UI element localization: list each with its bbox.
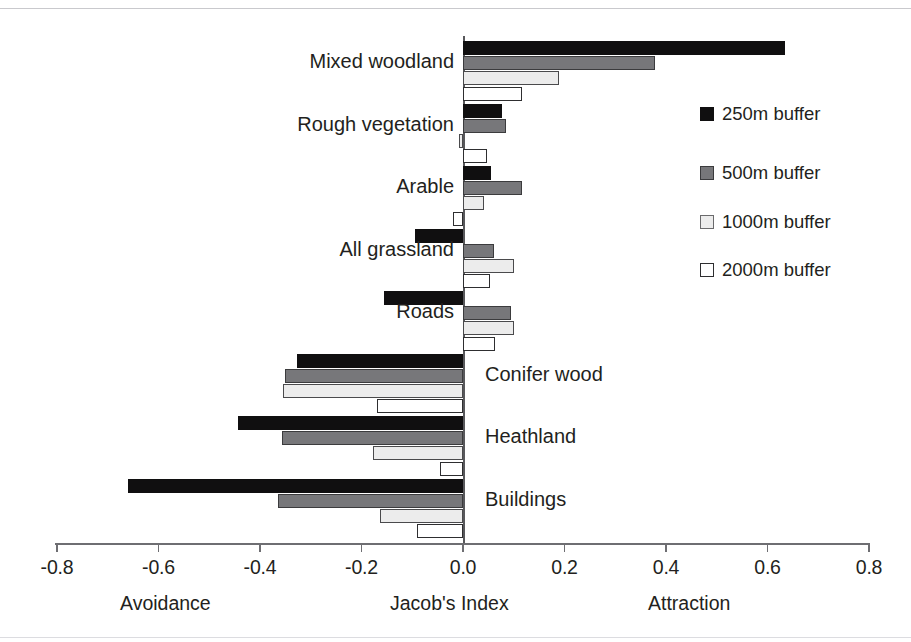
light-gray-square-icon (700, 215, 714, 229)
bar (459, 134, 463, 148)
bar (278, 494, 463, 508)
category-label: Arable (396, 175, 454, 198)
x-axis-tick (564, 543, 566, 552)
x-axis-tick-label: 0.8 (829, 556, 909, 579)
bar (377, 399, 463, 413)
dark-gray-square-icon (700, 166, 714, 180)
x-axis-tick (665, 543, 667, 552)
bar (463, 321, 514, 335)
black-square-icon (700, 107, 714, 121)
category-label: Rough vegetation (297, 113, 454, 136)
bar (463, 274, 490, 288)
legend-item: 1000m buffer (700, 213, 831, 232)
x-axis-tick (361, 543, 363, 552)
jacobs-index-bar-chart: -0.8-0.6-0.4-0.20.00.20.40.60.8Avoidance… (0, 0, 911, 642)
x-axis-tick (462, 543, 464, 552)
plot-area: -0.8-0.6-0.4-0.20.00.20.40.60.8Avoidance… (0, 0, 911, 642)
x-axis-tick (158, 543, 160, 552)
bar (373, 446, 463, 460)
bar (463, 104, 502, 118)
category-label: Buildings (485, 488, 566, 511)
category-label: Conifer wood (485, 363, 603, 386)
x-axis-tick-label: 0.2 (525, 556, 605, 579)
legend-item-label: 500m buffer (722, 164, 820, 183)
bar (463, 166, 491, 180)
bar (283, 384, 463, 398)
bar (238, 416, 463, 430)
bar (282, 431, 463, 445)
category-label: Mixed woodland (309, 50, 454, 73)
bar (463, 149, 487, 163)
bar (463, 259, 514, 273)
bar (417, 524, 463, 538)
legend-item-label: 2000m buffer (722, 261, 831, 280)
bar (285, 369, 463, 383)
bar (463, 306, 511, 320)
white-square-icon (700, 263, 714, 277)
legend-item-label: 1000m buffer (722, 213, 831, 232)
axis-caption-avoidance: Avoidance (120, 592, 211, 615)
bar (463, 71, 559, 85)
category-label: Roads (396, 300, 454, 323)
bar (297, 354, 463, 368)
x-axis-tick (868, 543, 870, 552)
x-axis-tick (259, 543, 261, 552)
bar (128, 479, 463, 493)
axis-caption-jacobs-index: Jacob's Index (390, 592, 509, 615)
legend-item: 250m buffer (700, 105, 820, 124)
x-axis-tick-label: 0.4 (626, 556, 706, 579)
bar (463, 87, 522, 101)
x-axis-tick-label: -0.6 (119, 556, 199, 579)
x-axis-tick-label: 0.0 (423, 556, 503, 579)
bar (463, 119, 506, 133)
bar (463, 244, 494, 258)
x-axis-tick-label: -0.8 (17, 556, 97, 579)
legend-item: 2000m buffer (700, 261, 831, 280)
axis-caption-attraction: Attraction (648, 592, 730, 615)
x-axis-tick-label: 0.6 (728, 556, 808, 579)
category-label: Heathland (485, 425, 576, 448)
bar (453, 212, 463, 226)
bar (440, 462, 463, 476)
x-axis-tick (56, 543, 58, 552)
legend-item-label: 250m buffer (722, 105, 820, 124)
bar (463, 181, 522, 195)
bar (463, 337, 495, 351)
bar (380, 509, 463, 523)
category-label: All grassland (339, 238, 454, 261)
bar (463, 56, 655, 70)
x-axis-tick-label: -0.4 (220, 556, 300, 579)
bar (463, 41, 785, 55)
x-axis-tick (767, 543, 769, 552)
bar (463, 196, 484, 210)
x-axis-tick-label: -0.2 (322, 556, 402, 579)
legend-item: 500m buffer (700, 164, 820, 183)
